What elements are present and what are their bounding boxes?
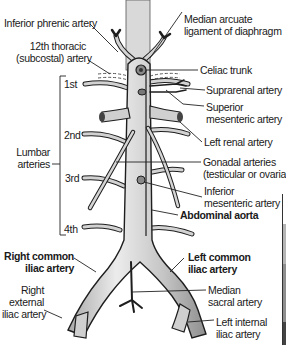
label-superior-mesenteric-artery: Superior mesenteric artery (206, 101, 282, 125)
label-inferior-phrenic-artery: Inferior phrenic artery (4, 17, 97, 29)
label-12th-thoracic-artery: 12th thoracic (subcostal) artery (16, 40, 86, 64)
label-median-sacral-artery: Median sacral artery (208, 284, 262, 308)
abdominal-aorta-vessel (68, 58, 206, 338)
sma-orifice (138, 89, 146, 95)
label-left-internal-iliac-artery: Left internal iliac artery (216, 316, 267, 340)
label-right-common-iliac-artery: Right common iliac artery (2, 250, 74, 274)
celiac-trunk-orifice (136, 65, 146, 75)
side-panel-segment (283, 194, 286, 224)
label-lumbar-4th: 4th (64, 223, 78, 235)
label-left-renal-artery: Left renal artery (204, 136, 272, 148)
side-panel-edge (282, 194, 286, 345)
lumbar-bracket (52, 76, 66, 235)
label-gonadal-arteries: Gonadal arteries (testicular or ovarian) (203, 156, 286, 180)
label-right-external-iliac-artery: Right external iliac artery (2, 284, 44, 320)
ima-orifice (137, 176, 145, 184)
label-lumbar-2nd: 2nd (64, 129, 81, 141)
label-lumbar-arteries: Lumbar arteries (6, 146, 50, 170)
label-median-arcuate-ligament: Median arcuate ligament of diaphragm (184, 13, 282, 37)
label-suprarenal-artery: Suprarenal artery (206, 84, 282, 96)
side-panel-segment (283, 224, 286, 264)
side-panel-segment (283, 322, 286, 345)
label-lumbar-3rd: 3rd (65, 172, 79, 184)
label-lumbar-1st: 1st (64, 78, 77, 90)
label-left-common-iliac-artery: Left common iliac artery (188, 251, 251, 275)
label-inferior-mesenteric-artery: Inferior mesenteric artery (204, 185, 280, 209)
label-abdominal-aorta: Abdominal aorta (180, 209, 258, 221)
label-celiac-trunk: Celiac trunk (200, 64, 252, 76)
side-panel-segment (283, 264, 286, 322)
